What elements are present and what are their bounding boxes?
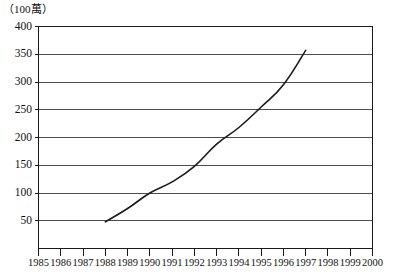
x-axis-tick-label: 2000 <box>358 257 388 268</box>
y-axis-tick-label: 100 <box>0 187 32 199</box>
y-axis-tick-label: 150 <box>0 159 32 171</box>
x-axis-ticks-group <box>39 249 373 256</box>
data-line <box>105 50 305 221</box>
chart-container: （100萬） 40035030025020015010050 198519861… <box>0 0 394 274</box>
y-axis-tick-label: 50 <box>0 215 32 227</box>
y-axis-tick-label: 400 <box>0 21 32 33</box>
y-axis-tick-label: 250 <box>0 104 32 116</box>
gridlines-group <box>39 54 373 221</box>
line-chart-plot <box>0 0 394 274</box>
y-axis-tick-label: 200 <box>0 132 32 144</box>
data-series-group <box>105 50 305 221</box>
y-axis-tick-label: 300 <box>0 76 32 88</box>
y-axis-tick-label: 350 <box>0 48 32 60</box>
